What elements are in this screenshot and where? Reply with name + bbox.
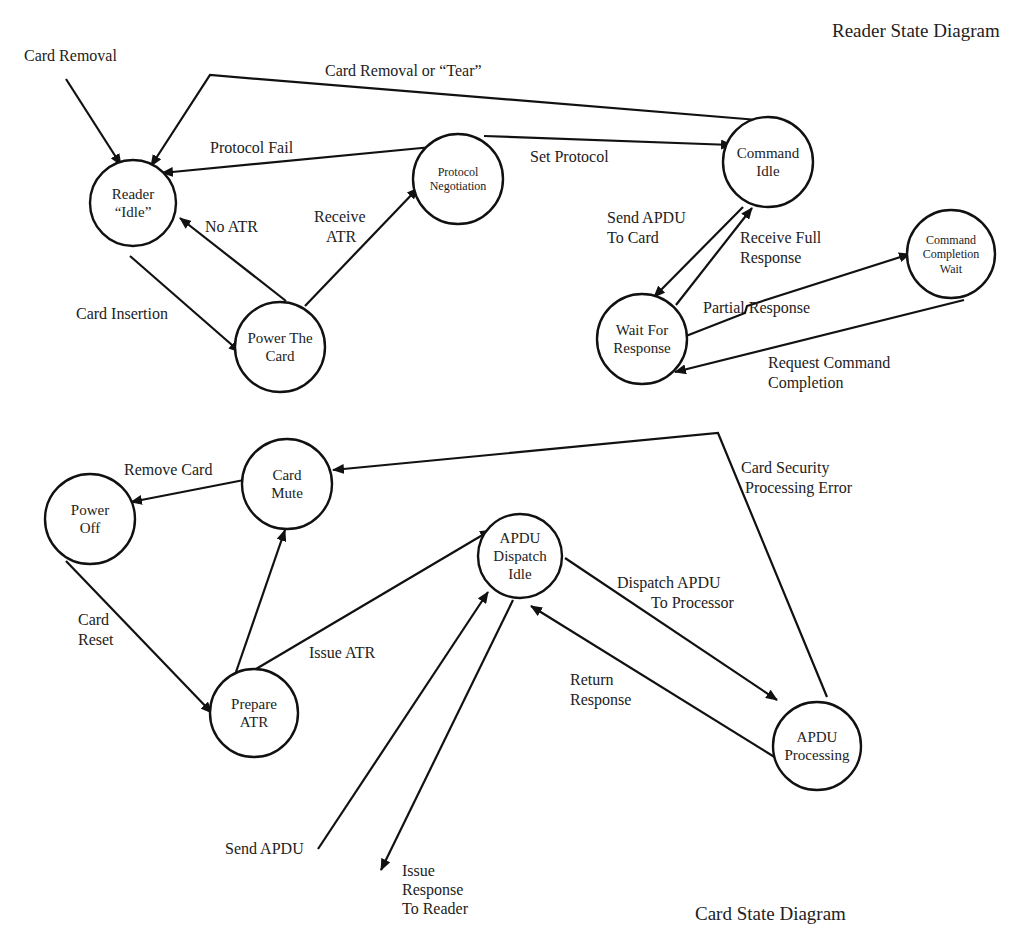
reader-transition-arrow — [686, 254, 910, 336]
card-transition-label: Reset — [78, 631, 114, 648]
card-transition-arrow — [318, 592, 488, 849]
card-transition-label: Return — [570, 671, 614, 688]
state-circle — [235, 302, 325, 392]
state-circle — [90, 160, 176, 246]
state-label: ATR — [240, 714, 268, 730]
card-transition-label: Response — [402, 881, 463, 899]
reader-transition-label: Protocol Fail — [210, 139, 294, 156]
state-protocol-negotiation: ProtocolNegotiation — [413, 134, 503, 224]
state-card-mute: CardMute — [242, 439, 332, 529]
state-power-the-card: Power TheCard — [235, 302, 325, 392]
reader-transition-label: Card Removal or “Tear” — [325, 62, 482, 79]
state-label: Power — [71, 502, 109, 518]
state-circle — [723, 117, 813, 207]
state-circle — [45, 474, 135, 564]
card-transition-label: Issue — [402, 862, 435, 879]
state-label: Response — [613, 340, 671, 356]
state-label: Idle — [756, 163, 780, 179]
reader-transition-label: To Card — [607, 229, 659, 246]
card-diagram-title: Card State Diagram — [695, 903, 846, 925]
reader-transition-label: ATR — [326, 228, 357, 245]
state-label: Completion — [923, 247, 980, 261]
card-transition-label: To Reader — [402, 900, 469, 917]
state-label: Idle — [508, 566, 532, 582]
state-command-completion-wait: CommandCompletionWait — [907, 210, 995, 298]
card-state-diagram: PowerOffCardMuteAPDUDispatchIdlePrepareA… — [45, 433, 861, 917]
card-transition-label: Remove Card — [124, 461, 212, 478]
state-power-off: PowerOff — [45, 474, 135, 564]
state-circle — [773, 702, 861, 790]
state-label: Off — [80, 520, 101, 536]
state-label: Wait For — [616, 322, 669, 338]
card-transition-label: Card — [78, 611, 109, 628]
reader-transition-label: Request Command — [768, 354, 890, 372]
card-transition-label: To Processor — [651, 594, 735, 611]
reader-diagram-title: Reader State Diagram — [832, 20, 1000, 42]
state-label: Mute — [271, 485, 303, 501]
state-apdu-dispatch-idle: APDUDispatchIdle — [478, 514, 562, 598]
state-label: Processing — [785, 747, 850, 763]
reader-transition-arrow — [162, 147, 432, 173]
reader-transition-label: Card Removal — [24, 47, 117, 64]
state-wait-for-response: Wait ForResponse — [597, 294, 687, 384]
card-transition-label: Card Security — [741, 459, 829, 477]
state-circle — [242, 439, 332, 529]
card-transition-label: Response — [570, 691, 631, 709]
state-label: Protocol — [438, 165, 479, 179]
state-label: Command — [926, 233, 976, 247]
reader-transition-label: Response — [740, 249, 801, 267]
state-label: Command — [737, 145, 800, 161]
state-label: Card — [265, 348, 295, 364]
reader-transition-label: Partial Response — [703, 299, 810, 317]
state-circle — [210, 669, 298, 757]
state-circle — [597, 294, 687, 384]
card-transition-arrow — [381, 600, 513, 870]
reader-transition-arrow — [305, 188, 418, 306]
state-apdu-processing: APDUProcessing — [773, 702, 861, 790]
state-label: Card — [272, 467, 302, 483]
reader-transition-label: Completion — [768, 374, 844, 392]
card-transition-label: Send APDU — [225, 840, 304, 857]
reader-transition-arrow — [66, 79, 121, 165]
reader-transition-arrow — [484, 136, 732, 145]
state-reader-idle: Reader“Idle” — [90, 160, 176, 246]
card-transition-arrow — [131, 480, 244, 502]
reader-transition-label: Receive Full — [740, 229, 822, 246]
state-label: Negotiation — [430, 179, 487, 193]
reader-transition-label: Set Protocol — [530, 148, 609, 165]
reader-transition-label: No ATR — [205, 218, 258, 235]
card-transition-label: Dispatch APDU — [617, 574, 721, 592]
card-transition-label: Processing Error — [745, 479, 853, 497]
card-transition-arrow — [236, 530, 285, 672]
state-label: APDU — [500, 530, 541, 546]
state-label: Reader — [112, 186, 154, 202]
state-label: Dispatch — [493, 548, 547, 564]
card-transition-arrow — [531, 606, 776, 758]
state-label: Power The — [247, 330, 312, 346]
reader-transition-arrow — [130, 256, 240, 352]
state-diagram-canvas: Reader“Idle”ProtocolNegotiationCommandId… — [0, 0, 1026, 935]
card-transition-label: Issue ATR — [309, 644, 376, 661]
state-label: Wait — [940, 262, 963, 276]
state-label: Prepare — [231, 696, 277, 712]
state-label: “Idle” — [115, 204, 152, 220]
state-prepare-atr: PrepareATR — [210, 669, 298, 757]
reader-transition-label: Card Insertion — [76, 305, 168, 322]
state-command-idle: CommandIdle — [723, 117, 813, 207]
reader-transition-label: Receive — [314, 208, 366, 225]
reader-state-diagram: Reader“Idle”ProtocolNegotiationCommandId… — [24, 47, 995, 392]
state-label: APDU — [797, 729, 838, 745]
reader-transition-label: Send APDU — [607, 209, 686, 226]
